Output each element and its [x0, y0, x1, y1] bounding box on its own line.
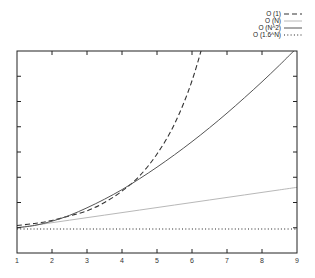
- legend: O (1)O (N)O (N^2)O (1.6^N): [253, 10, 302, 39]
- x-tick-label: 5: [155, 257, 159, 264]
- complexity-chart: 123456789 O (1)O (N)O (N^2)O (1.6^N): [0, 0, 315, 278]
- x-axis-labels: 123456789: [15, 257, 299, 264]
- x-tick-label: 9: [295, 257, 299, 264]
- x-tick-label: 7: [225, 257, 229, 264]
- series-line: [17, 48, 297, 228]
- axis-ticks: [17, 51, 297, 253]
- series-line: [17, 187, 297, 227]
- legend-label: O (1.6^N): [253, 31, 281, 39]
- x-tick-label: 4: [120, 257, 124, 264]
- x-tick-label: 3: [85, 257, 89, 264]
- x-tick-label: 2: [50, 257, 54, 264]
- x-tick-label: 1: [15, 257, 19, 264]
- x-tick-label: 8: [260, 257, 264, 264]
- plot-frame: [17, 51, 297, 253]
- x-tick-label: 6: [190, 257, 194, 264]
